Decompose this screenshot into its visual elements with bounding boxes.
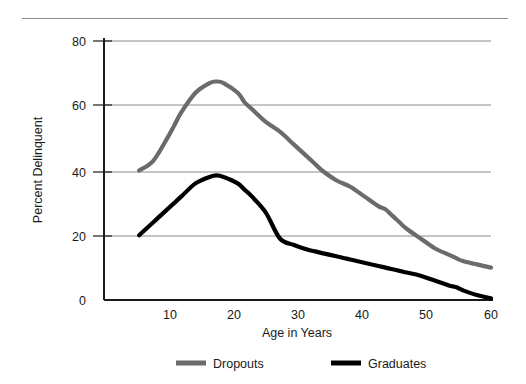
y-tick-label-0: 0 (79, 294, 86, 308)
line-chart: 80 60 40 20 0 10 20 30 40 50 60 Age in Y… (0, 0, 526, 384)
x-tick-label-20: 20 (227, 308, 241, 322)
x-tick-label-40: 40 (355, 308, 369, 322)
x-tick-label-60: 60 (484, 308, 498, 322)
y-axis-title: Percent Delinquent (31, 116, 45, 223)
chart-figure: 80 60 40 20 0 10 20 30 40 50 60 Age in Y… (0, 0, 526, 384)
series-line-graduates (139, 175, 491, 298)
x-tick-label-10: 10 (163, 308, 177, 322)
chart-legend: Dropouts Graduates (176, 357, 426, 371)
x-tick-label-50: 50 (419, 308, 433, 322)
y-tick-label-80: 80 (72, 35, 86, 49)
y-tick-label-20: 20 (72, 230, 86, 244)
y-tick-label-40: 40 (72, 166, 86, 180)
legend-label-graduates: Graduates (368, 357, 426, 371)
gridlines (104, 41, 491, 236)
y-tick-label-60: 60 (72, 99, 86, 113)
legend-label-dropouts: Dropouts (213, 357, 264, 371)
series-line-dropouts (139, 81, 491, 267)
x-tick-label-30: 30 (291, 308, 305, 322)
y-axis-ticks (93, 41, 112, 236)
x-axis-title: Age in Years (262, 326, 332, 340)
